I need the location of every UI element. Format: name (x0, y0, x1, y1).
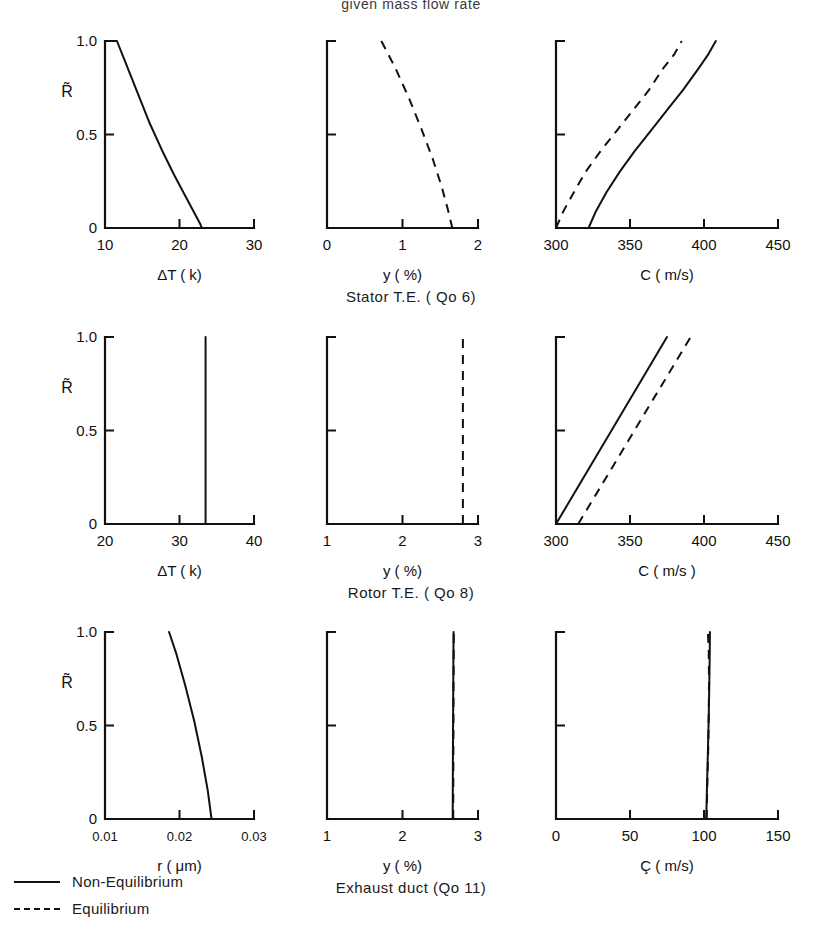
x-axis-ticks: 300350400450 (543, 219, 790, 253)
x-tick-label: 350 (617, 532, 642, 549)
legend-item-equilibrium: Equilibrium (14, 895, 183, 922)
y-axis-ticks (327, 41, 336, 135)
x-axis-label: y ( %) (383, 562, 422, 579)
x-tick-label: 3 (474, 532, 482, 549)
y-axis-ticks (327, 632, 336, 726)
series-non-equilibrium (706, 632, 710, 819)
x-axis-ticks: 050100150 (552, 810, 791, 844)
y-axis-ticks: 00.51.0 (76, 328, 114, 532)
legend-line-solid-icon (14, 881, 60, 883)
plot-panel-rotor-y: 123y ( %) (267, 323, 508, 604)
series-non-equilibrium (169, 632, 211, 819)
x-tick-label: 3 (474, 827, 482, 844)
plot-panel-exhaust-y: 123y ( %) (267, 618, 508, 899)
y-tick-label: 0 (89, 219, 97, 236)
x-tick-label: 0 (552, 827, 560, 844)
x-axis-label: C ( m/s) (640, 266, 693, 283)
x-tick-label: 450 (765, 532, 790, 549)
x-tick-label: 0.03 (241, 829, 266, 844)
x-tick-label: 0.02 (167, 829, 192, 844)
legend-line-dashed-icon (14, 908, 60, 910)
legend-label-equilibrium: Equilibrium (72, 900, 150, 917)
y-axis-ticks (327, 337, 336, 431)
x-tick-label: 100 (691, 827, 716, 844)
x-tick-label: 2 (398, 532, 406, 549)
x-tick-label: 30 (246, 236, 263, 253)
axes-group (105, 337, 254, 524)
x-tick-label: 1 (323, 532, 331, 549)
plot-panel-stator-c: 300350400450C ( m/s) (496, 27, 808, 308)
x-tick-label: 1 (323, 827, 331, 844)
y-axis-ticks (556, 41, 565, 135)
series-non-equilibrium (105, 41, 202, 228)
figure-root: given mass flow rate 00.51.0102030ΔT ( k… (0, 0, 822, 929)
x-axis-ticks: 012 (323, 219, 482, 253)
y-axis-ticks (556, 632, 565, 726)
axes-group (556, 337, 778, 524)
x-tick-label: 50 (622, 827, 639, 844)
x-tick-label: 30 (171, 532, 188, 549)
x-axis-label: y ( %) (383, 857, 422, 874)
x-axis-ticks: 123 (323, 810, 482, 844)
plot-panel-stator-y: 012y ( %) (267, 27, 508, 308)
y-axis-label: R̃ (61, 377, 73, 396)
x-tick-label: 0.01 (92, 829, 117, 844)
x-axis-label: Ç ( m/s) (640, 857, 693, 874)
y-tick-label: 1.0 (76, 32, 97, 49)
plot-panel-exhaust-r: 00.51.00.010.020.03r ( μm)R̃ (45, 618, 284, 899)
axes-group (556, 41, 778, 228)
series-equilibrium (381, 41, 452, 228)
x-tick-label: 2 (474, 236, 482, 253)
y-tick-label: 0.5 (76, 126, 97, 143)
y-tick-label: 0 (89, 515, 97, 532)
plot-panel-exhaust-c: 050100150Ç ( m/s) (496, 618, 808, 899)
legend-item-non-equilibrium: Non-Equilibrium (14, 868, 183, 895)
axes-group (327, 632, 478, 819)
x-tick-label: 10 (97, 236, 114, 253)
x-axis-ticks: 0.010.020.03 (92, 810, 266, 844)
row-caption-rotor: Rotor T.E. ( Qo 8) (0, 584, 822, 601)
axes-group (556, 632, 778, 819)
y-tick-label: 0.5 (76, 422, 97, 439)
x-axis-label: C ( m/s ) (638, 562, 696, 579)
x-tick-label: 150 (765, 827, 790, 844)
y-tick-label: 0.5 (76, 717, 97, 734)
x-tick-label: 40 (246, 532, 263, 549)
series-equilibrium (556, 41, 682, 228)
axes-group (327, 337, 478, 524)
axes-group (105, 632, 254, 819)
x-axis-ticks: 203040 (97, 515, 263, 549)
series-non-equilibrium (453, 632, 454, 819)
series-non-equilibrium (556, 337, 667, 524)
y-axis-label: R̃ (61, 672, 73, 691)
plot-panel-rotor-dt: 00.51.0203040ΔT ( k)R̃ (45, 323, 284, 604)
plot-panel-stator-dt: 00.51.0102030ΔT ( k)R̃ (45, 27, 284, 308)
x-axis-ticks: 102030 (97, 219, 263, 253)
x-tick-label: 1 (398, 236, 406, 253)
x-tick-label: 400 (691, 532, 716, 549)
y-tick-label: 0 (89, 810, 97, 827)
row-caption-stator: Stator T.E. ( Qo 6) (0, 288, 822, 305)
x-tick-label: 300 (543, 236, 568, 253)
legend-label-non-equilibrium: Non-Equilibrium (72, 873, 183, 890)
series-non-equilibrium (589, 41, 716, 228)
x-tick-label: 20 (171, 236, 188, 253)
y-axis-label: R̃ (61, 81, 73, 100)
x-tick-label: 2 (398, 827, 406, 844)
y-tick-label: 1.0 (76, 328, 97, 345)
y-axis-ticks: 00.51.0 (76, 623, 114, 827)
figure-header-text: given mass flow rate (0, 0, 822, 12)
x-axis-label: ΔT ( k) (157, 562, 202, 579)
x-tick-label: 300 (543, 532, 568, 549)
x-tick-label: 350 (617, 236, 642, 253)
axes-group (327, 41, 478, 228)
y-axis-ticks (556, 337, 565, 431)
series-equilibrium (578, 337, 690, 524)
plot-panel-rotor-c: 300350400450C ( m/s ) (496, 323, 808, 604)
y-tick-label: 1.0 (76, 623, 97, 640)
x-tick-label: 450 (765, 236, 790, 253)
x-axis-ticks: 123 (323, 515, 482, 549)
x-tick-label: 400 (691, 236, 716, 253)
legend: Non-Equilibrium Equilibrium (14, 868, 183, 922)
x-tick-label: 0 (323, 236, 331, 253)
